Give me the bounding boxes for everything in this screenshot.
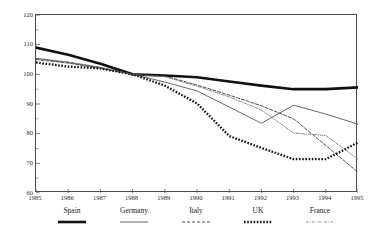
x-tick-label-1994: 1994	[310, 194, 340, 202]
x-tick-label-1991: 1991	[213, 194, 243, 202]
legend-swatch-spain-icon	[57, 219, 87, 225]
legend-swatch-germany-icon	[119, 219, 149, 225]
x-tick-label-1992: 1992	[245, 194, 275, 202]
series-line-france	[36, 59, 358, 159]
chart-legend: SpainGermanyItalyUKFrance	[35, 206, 357, 234]
legend-item-italy[interactable]: Italy	[165, 206, 227, 225]
y-tick-label-80: 80	[11, 129, 33, 136]
legend-swatch-france-icon	[305, 219, 335, 225]
x-tick-label-1987: 1987	[84, 194, 114, 202]
x-tick-label-1993: 1993	[278, 194, 308, 202]
top-caption-text	[6, 0, 226, 7]
y-tick-label-120: 120	[11, 11, 33, 18]
legend-label: UK	[253, 206, 264, 216]
x-tick-label-1990: 1990	[181, 194, 211, 202]
legend-item-germany[interactable]: Germany	[103, 206, 165, 225]
x-tick-label-1988: 1988	[117, 194, 147, 202]
chart-figure: SpainGermanyItalyUKFrance 60708090100110…	[0, 0, 372, 236]
y-tick-label-70: 70	[11, 159, 33, 166]
series-canvas	[36, 15, 358, 193]
x-tick-label-1985: 1985	[20, 194, 50, 202]
y-tick-label-90: 90	[11, 100, 33, 107]
legend-label: Spain	[63, 206, 80, 216]
x-tick-label-1986: 1986	[52, 194, 82, 202]
y-tick-label-110: 110	[11, 40, 33, 47]
legend-label: France	[310, 206, 330, 216]
x-tick-label-1995: 1995	[342, 194, 372, 202]
y-tick-label-100: 100	[11, 70, 33, 77]
x-tick-label-1989: 1989	[149, 194, 179, 202]
plot-area	[35, 14, 357, 192]
legend-item-spain[interactable]: Spain	[41, 206, 103, 225]
legend-label: Italy	[189, 206, 203, 216]
legend-swatch-uk-icon	[243, 219, 273, 225]
legend-label: Germany	[120, 206, 148, 216]
legend-item-uk[interactable]: UK	[227, 206, 289, 225]
legend-item-france[interactable]: France	[289, 206, 351, 225]
legend-swatch-italy-icon	[181, 219, 211, 225]
